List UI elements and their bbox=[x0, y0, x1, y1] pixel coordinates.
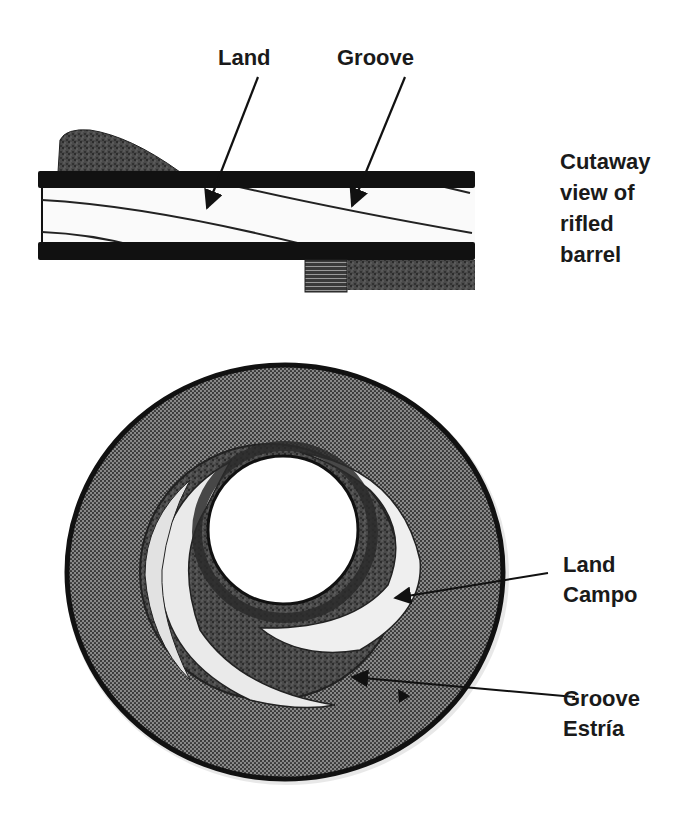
groove-label: Groove bbox=[337, 45, 414, 71]
barrel-top-wall bbox=[38, 171, 475, 188]
caption-line-3: rifled bbox=[560, 208, 650, 239]
barrel-bottom-wall bbox=[38, 242, 475, 260]
lower-block-grain bbox=[347, 260, 475, 290]
bore-interior bbox=[40, 186, 475, 244]
cutaway-barrel bbox=[38, 77, 475, 292]
groove-es: Estría bbox=[563, 714, 640, 744]
land-label: Land bbox=[218, 45, 271, 71]
front-sight bbox=[58, 130, 180, 172]
caption-line-1: Cutaway bbox=[560, 146, 650, 177]
groove-estria-label: Groove Estría bbox=[563, 684, 640, 744]
groove-en: Groove bbox=[563, 684, 640, 714]
bore bbox=[208, 456, 358, 604]
land-es: Campo bbox=[563, 580, 638, 610]
caption-line-2: view of bbox=[560, 177, 650, 208]
lower-block-striped bbox=[305, 260, 347, 292]
land-campo-label: Land Campo bbox=[563, 550, 638, 610]
caption-line-4: barrel bbox=[560, 239, 650, 270]
land-en: Land bbox=[563, 550, 638, 580]
cutaway-caption: Cutaway view of rifled barrel bbox=[560, 146, 650, 270]
barrel-cross-section bbox=[65, 365, 575, 785]
